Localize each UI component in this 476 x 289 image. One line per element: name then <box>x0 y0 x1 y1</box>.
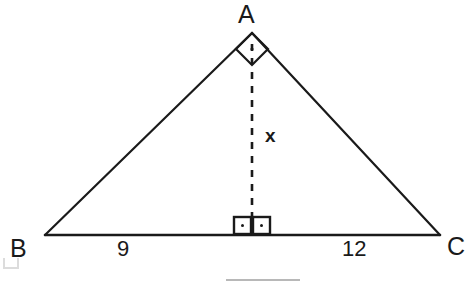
segment-length-right: 12 <box>342 238 366 260</box>
diagram-background <box>0 0 476 289</box>
altitude-length-label: x <box>265 126 276 145</box>
segment-length-left: 9 <box>117 238 129 260</box>
triangle-diagram <box>0 0 476 289</box>
vertex-label-b: B <box>10 236 27 261</box>
vertex-label-a: A <box>238 2 255 27</box>
vertex-label-c: C <box>447 234 465 259</box>
